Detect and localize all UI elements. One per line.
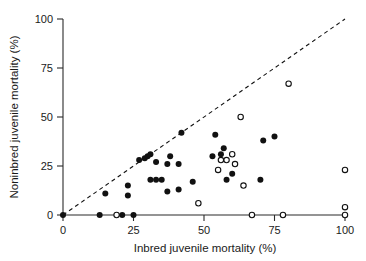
data-point: [196, 201, 201, 206]
data-point: [232, 161, 237, 166]
data-point: [280, 212, 285, 217]
data-point: [272, 134, 278, 140]
data-point: [249, 212, 254, 217]
data-point: [153, 159, 159, 165]
data-point: [164, 188, 170, 194]
data-point: [342, 212, 347, 217]
data-point: [224, 177, 230, 183]
data-point: [114, 212, 119, 217]
data-point: [238, 114, 243, 119]
data-point: [147, 151, 153, 157]
data-point: [221, 145, 227, 151]
scatter-plot-figure: 0255075100 0255075100 Inbred juvenile mo…: [0, 0, 366, 261]
data-point: [97, 212, 103, 218]
x-tick-label: 50: [198, 224, 210, 236]
data-point: [215, 167, 220, 172]
data-point: [167, 153, 173, 159]
data-point: [212, 132, 218, 138]
data-point: [241, 183, 246, 188]
equality-reference-line: [63, 19, 345, 215]
filled-circle-series: [60, 130, 278, 218]
y-axis-title: Noninbred juvenile mortality (%): [8, 35, 20, 198]
data-point: [230, 152, 235, 157]
x-tick-label: 25: [127, 224, 139, 236]
data-point: [260, 138, 266, 144]
data-point: [60, 212, 66, 218]
y-tick-label: 100: [35, 13, 53, 25]
plot-canvas: 0255075100 0255075100 Inbred juvenile mo…: [0, 0, 366, 261]
data-point: [257, 177, 263, 183]
y-tick-label: 0: [47, 209, 53, 221]
data-point: [119, 212, 125, 218]
data-point: [176, 187, 182, 193]
data-point: [176, 161, 182, 167]
y-axis-tick-labels: 0255075100: [35, 13, 53, 221]
data-point: [131, 212, 137, 218]
y-axis-ticks: [57, 19, 63, 215]
data-point: [125, 183, 131, 189]
data-point: [178, 130, 184, 136]
x-tick-label: 0: [60, 224, 66, 236]
open-circle-series: [114, 81, 348, 218]
y-tick-label: 25: [41, 160, 53, 172]
data-point: [218, 157, 223, 162]
y-tick-label: 50: [41, 111, 53, 123]
data-point: [342, 167, 347, 172]
reference-line-group: [63, 19, 345, 215]
data-point: [229, 171, 235, 177]
data-point: [159, 177, 165, 183]
x-tick-label: 75: [268, 224, 280, 236]
data-point: [218, 151, 224, 157]
data-point: [224, 157, 229, 162]
data-point: [153, 177, 159, 183]
data-point: [125, 192, 131, 198]
x-axis-tick-labels: 0255075100: [60, 224, 354, 236]
data-point: [164, 161, 170, 167]
x-tick-label: 100: [336, 224, 354, 236]
data-point: [102, 190, 108, 196]
data-point: [147, 177, 153, 183]
y-tick-label: 75: [41, 62, 53, 74]
x-axis-title: Inbred juvenile mortality (%): [134, 242, 277, 254]
data-point: [136, 157, 142, 163]
data-point: [190, 179, 196, 185]
x-axis-ticks: [63, 215, 345, 221]
data-point: [209, 153, 215, 159]
data-point: [286, 81, 291, 86]
data-point: [342, 204, 347, 209]
